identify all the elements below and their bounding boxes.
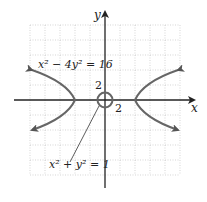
x-axis-label: x [191, 101, 198, 115]
y-axis-label: y [93, 8, 101, 22]
y-tick-label: 2 [95, 79, 102, 92]
graph: y x 2 2 x² − 4y² = 16 x² + y² = 1 [0, 0, 207, 202]
hyperbola-equation-label: x² − 4y² = 16 [38, 58, 113, 71]
circle-leader-line [70, 106, 99, 162]
hyperbola-right-branch-lower [135, 100, 178, 130]
circle-equation-label: x² + y² = 1 [49, 158, 110, 171]
x-tick-label: 2 [115, 102, 122, 115]
hyperbola-right-branch [135, 70, 178, 100]
